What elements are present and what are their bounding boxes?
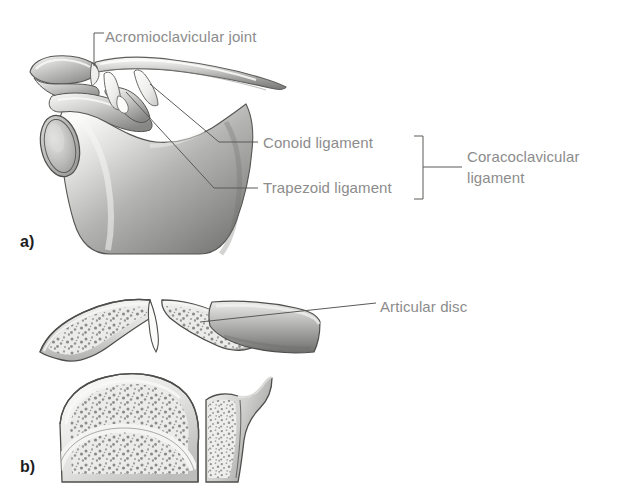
label-acromioclavicular-joint: Acromioclavicular joint [105,26,257,47]
figure-illustration [0,0,618,498]
label-conoid-ligament: Conoid ligament [263,132,373,153]
articular-disc-gap [148,300,158,352]
panel-b-illustration [40,300,376,483]
acromion-section-lower-small [206,377,272,482]
label-articular-disc: Articular disc [380,296,467,317]
label-coracoclavicular-ligament: Coracoclavicular ligament [467,146,617,188]
clavicle-section-left [40,300,154,362]
label-trapezoid-ligament: Trapezoid ligament [263,177,392,198]
panel-a-illustration [30,33,462,254]
clavicle-bone [92,57,286,90]
panel-letter-b: b) [20,458,35,476]
clavicle-section-lower-large [58,374,199,482]
panel-letter-a: a) [20,233,34,251]
scapula-body [59,104,252,254]
anatomical-figure: Acromioclavicular joint Conoid ligament … [0,0,618,498]
coracoclavicular-bracket [414,136,462,199]
